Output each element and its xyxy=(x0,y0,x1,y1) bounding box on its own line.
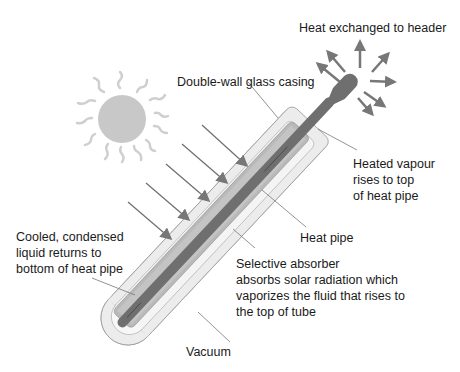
label-selective-absorber: Selective absorber absorbs solar radiati… xyxy=(236,256,405,320)
label-heat-exchanged: Heat exchanged to header xyxy=(299,20,446,36)
label-cooled-liquid: Cooled, condensed liquid returns to bott… xyxy=(16,229,124,277)
label-heated-vapour: Heated vapour rises to top of heat pipe xyxy=(353,156,435,204)
label-vacuum: Vacuum xyxy=(186,344,231,360)
label-heat-pipe: Heat pipe xyxy=(300,230,354,246)
sun-icon xyxy=(77,72,168,162)
label-double-wall-glass: Double-wall glass casing xyxy=(177,74,315,90)
